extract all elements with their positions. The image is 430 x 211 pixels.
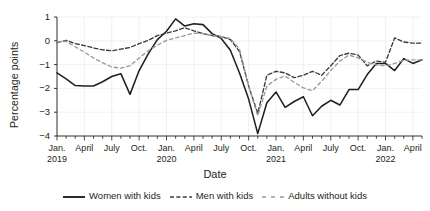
x-tick-label: July [104,143,120,153]
x-tick-year-label: 2020 [156,154,176,164]
x-tick-label: Oct. [350,143,367,153]
legend-item: Men with kids [170,190,254,201]
x-tick-label: July [213,143,229,153]
x-tick-year-label: 2022 [375,154,395,164]
y-tick-label: −3 [26,106,50,117]
x-tick-label: April [75,143,93,153]
chart-legend: Women with kidsMen with kidsAdults witho… [0,190,430,201]
y-tick-label: −1 [26,59,50,70]
x-tick-label: Jan. [158,143,175,153]
x-axis-title: Date [0,168,430,180]
y-tick-label: 1 [26,11,50,22]
x-tick-year-label: 2021 [266,154,286,164]
x-tick-label: April [404,143,422,153]
legend-label: Men with kids [196,190,254,201]
legend-item: Adults without kids [262,190,367,201]
legend-item: Women with kids [63,190,161,201]
x-tick-label: July [323,143,339,153]
x-tick-label: Jan. [48,143,65,153]
y-tick-label: −2 [26,82,50,93]
x-tick-label: Jan. [267,143,284,153]
x-axis-ticks [57,136,422,141]
x-tick-label: April [294,143,312,153]
x-tick-label: April [185,143,203,153]
x-tick-year-label: 2019 [47,154,67,164]
legend-swatch-dashed-gray [262,192,284,200]
legend-swatch-solid [63,192,85,200]
chart-container: Percentage points 10−1−2−3−4 Jan.2019Apr… [0,0,430,211]
x-tick-label: Oct. [240,143,257,153]
legend-label: Women with kids [89,190,161,201]
legend-label: Adults without kids [288,190,367,201]
y-tick-label: 0 [26,35,50,46]
y-tick-label: −4 [26,130,50,141]
x-tick-label: Oct. [131,143,148,153]
legend-swatch-dashed [170,192,192,200]
x-tick-label: Jan. [377,143,394,153]
